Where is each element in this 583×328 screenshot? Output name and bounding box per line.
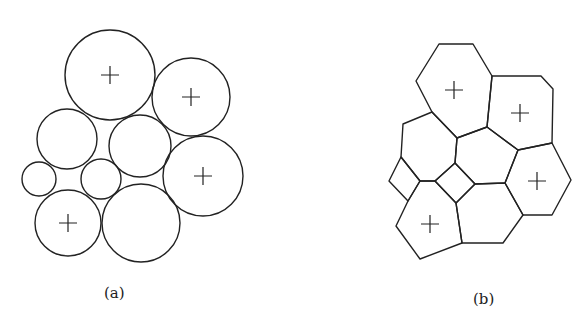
- polygon-tessellation: [389, 44, 571, 259]
- circle: [102, 184, 180, 262]
- circle: [37, 109, 97, 169]
- figure: [0, 0, 583, 328]
- circle: [22, 162, 56, 196]
- plus-marker: [528, 172, 546, 190]
- plus-marker: [445, 81, 463, 99]
- plus-marker: [182, 88, 200, 106]
- plus-marker: [59, 214, 77, 232]
- circle-packing: [22, 30, 243, 262]
- plus-marker: [101, 66, 119, 84]
- plus-marker: [194, 167, 212, 185]
- caption-a: (a): [104, 284, 125, 302]
- caption-b: (b): [473, 290, 494, 308]
- plus-marker: [421, 215, 439, 233]
- plus-marker: [511, 104, 529, 122]
